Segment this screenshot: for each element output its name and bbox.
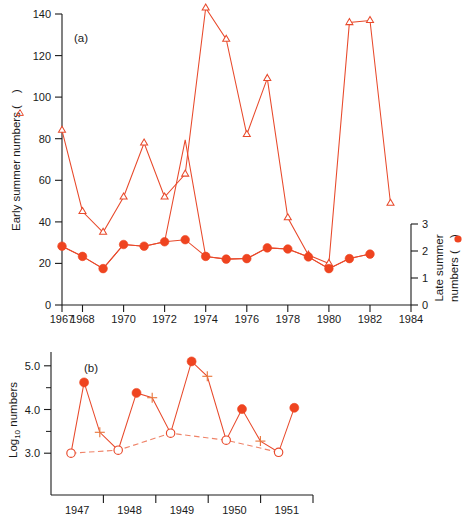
panel-a-y2tick-3: 3 [422, 218, 428, 230]
filled-circle-icon [454, 235, 461, 242]
panel-a-right-axis-title-line1: Late summer [433, 234, 445, 301]
panel-b-xtick-1947: 1947 [65, 504, 89, 516]
open-circle-marker [67, 449, 75, 457]
filled-circle-marker [187, 357, 196, 366]
panel-a-early-summer-line [62, 8, 391, 263]
panel-a-label: (a) [74, 32, 88, 44]
panel-a-ytick-120: 120 [33, 50, 51, 62]
panel-a-xtick-1968: 1968 [70, 313, 94, 325]
svg-text:Log10 numbers: Log10 numbers [7, 382, 22, 458]
open-circle-marker [274, 448, 282, 456]
figure-container: 0 20 40 60 80 100 120 140 0 1 2 3 [0, 0, 474, 522]
panel-a-xtick-1972: 1972 [152, 313, 176, 325]
panel-a-late-summer-line [62, 140, 370, 269]
panel-b-label: (b) [84, 362, 98, 374]
panel-a-ytick-100: 100 [33, 91, 51, 103]
panel-a-xtick-1978: 1978 [276, 313, 300, 325]
panel-a-ytick-80: 80 [39, 133, 51, 145]
plus-marker [147, 393, 157, 403]
panel-b-y-axis-title: Log10 numbers [7, 382, 22, 458]
svg-text:numbers ( ): numbers ( ) [448, 234, 460, 302]
panel-b-markers [67, 357, 299, 458]
panel-b-open-circle-trend [71, 433, 279, 453]
panel-b-xtick-1951: 1951 [275, 504, 299, 516]
panel-a-right-title-pre: numbers ( [448, 247, 460, 302]
figure-svg: 0 20 40 60 80 100 120 140 0 1 2 3 [0, 0, 474, 522]
panel-b-ytick-5: 5.0 [25, 360, 40, 372]
filled-circle-marker [290, 403, 299, 412]
svg-text:Late summer: Late summer [433, 234, 445, 301]
plus-marker [255, 436, 265, 446]
panel-a-ytick-0: 0 [45, 299, 51, 311]
panel-b-xtick-1950: 1950 [222, 504, 246, 516]
panel-b-xtick-1948: 1948 [117, 504, 141, 516]
open-circle-marker [114, 446, 122, 454]
panel-a-xtick-1984: 1984 [399, 313, 423, 325]
filled-circle-marker [238, 405, 247, 414]
filled-circle-marker [80, 378, 89, 387]
panel-a-right-axis-title-line2: numbers ( ) [448, 234, 460, 302]
panel-a-ytick-140: 140 [33, 8, 51, 20]
panel-b-ytick-4: 4.0 [25, 404, 40, 416]
panel-a-ytick-20: 20 [39, 257, 51, 269]
panel-a-ytick-60: 60 [39, 174, 51, 186]
open-circle-marker [166, 429, 174, 437]
panel-a-xtick-1970: 1970 [111, 313, 135, 325]
panel-a-left-title-post: ) [10, 89, 22, 93]
panel-b-ytick-3: 3.0 [25, 447, 40, 459]
panel-a-y2tick-2: 2 [422, 245, 428, 257]
panel-a-early-summer-markers [59, 4, 395, 265]
panel-a-left-ticks [55, 14, 62, 305]
panel-b-ytitle-rest: numbers [7, 382, 19, 430]
panel-a-x-ticks [62, 305, 411, 312]
panel-a-xtick-1982: 1982 [358, 313, 382, 325]
panel-a-left-title-pre: Early summer numbers ( [10, 102, 22, 231]
open-circle-marker [222, 436, 230, 444]
panel-a-right-ticks [411, 224, 418, 305]
panel-a-ytick-40: 40 [39, 216, 51, 228]
panel-b-xtick-1949: 1949 [170, 504, 194, 516]
panel-b: 3.0 4.0 5.0 1947 1948 1949 1950 1951 (b)… [7, 352, 313, 516]
panel-a-late-summer-markers [58, 235, 375, 273]
panel-a-y2tick-1: 1 [422, 272, 428, 284]
panel-b-y-ticks [44, 366, 51, 453]
panel-a-xtick-1974: 1974 [193, 313, 217, 325]
panel-a-y2tick-0: 0 [422, 299, 428, 311]
panel-a-xtick-1980: 1980 [317, 313, 341, 325]
panel-a: 0 20 40 60 80 100 120 140 0 1 2 3 [10, 4, 462, 325]
panel-a-late-summer-line-fix [62, 240, 370, 269]
panel-b-x-ticks [103, 495, 313, 503]
panel-b-ytitle-main: Log [7, 439, 19, 458]
panel-a-xtick-1976: 1976 [235, 313, 259, 325]
filled-circle-marker [132, 388, 141, 397]
